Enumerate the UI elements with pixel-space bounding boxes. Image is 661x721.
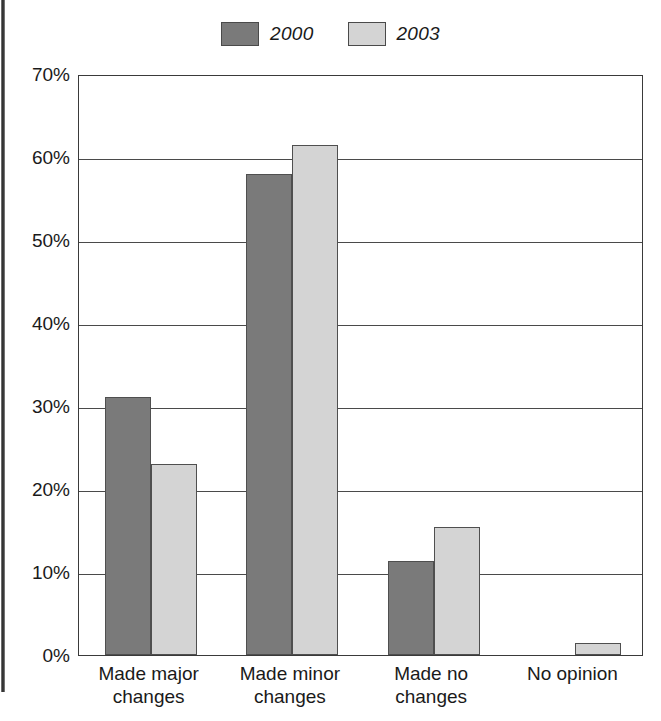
legend-swatch-2003 — [348, 22, 386, 46]
chart-legend: 2000 2003 — [0, 22, 661, 46]
y-tick-label-20: 20% — [2, 479, 70, 501]
legend-label-2000: 2000 — [270, 23, 313, 45]
bar-2003-group-1 — [292, 145, 338, 655]
x-tick-label-2: Made nochanges — [361, 662, 502, 708]
bar-2003-group-2 — [434, 527, 480, 655]
x-tick-label-1: Made minorchanges — [219, 662, 360, 708]
gridline-50 — [79, 242, 642, 243]
gridline-60 — [79, 159, 642, 160]
y-tick-label-10: 10% — [2, 562, 70, 584]
bar-2000-group-0 — [105, 397, 151, 655]
y-tick-label-60: 60% — [2, 147, 70, 169]
legend-swatch-2000 — [221, 22, 259, 46]
y-tick-label-0: 0% — [2, 645, 70, 667]
gridline-40 — [79, 325, 642, 326]
y-axis: 70%60%50%40%30%20%10%0% — [0, 75, 70, 656]
plot-area — [78, 75, 643, 656]
bar-2000-group-2 — [388, 561, 434, 655]
bar-2003-group-0 — [151, 464, 197, 655]
legend-label-2003: 2003 — [397, 23, 440, 45]
x-tick-label-3: No opinion — [502, 662, 643, 685]
y-tick-label-70: 70% — [2, 64, 70, 86]
y-tick-label-30: 30% — [2, 396, 70, 418]
legend-item-2000: 2000 — [221, 22, 313, 46]
gridline-30 — [79, 408, 642, 409]
y-tick-label-40: 40% — [2, 313, 70, 335]
x-axis: Made majorchangesMade minorchangesMade n… — [78, 662, 643, 720]
x-tick-label-0: Made majorchanges — [78, 662, 219, 708]
bar-2003-group-3 — [575, 643, 621, 655]
legend-item-2003: 2003 — [348, 22, 440, 46]
y-tick-label-50: 50% — [2, 230, 70, 252]
bar-2000-group-1 — [246, 174, 292, 655]
